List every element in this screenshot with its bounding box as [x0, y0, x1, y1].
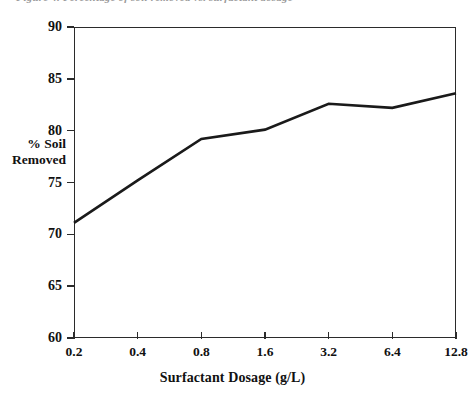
y-axis-tick-label: 85 [48, 69, 62, 89]
y-axis-tick-mark [67, 285, 74, 286]
y-axis-tick-mark [67, 234, 74, 235]
x-axis-title: Surfactant Dosage (g/L) [0, 370, 465, 386]
y-axis-tick-label: 65 [48, 276, 62, 296]
y-axis-tick-label: 90 [48, 17, 62, 37]
x-axis-tick-mark [455, 332, 456, 339]
y-axis-tick-mark [67, 26, 74, 27]
figure-caption-clipped: Figure 4. Percentage of soil removed vs.… [0, 0, 465, 5]
y-axis-tick-label: 70 [48, 224, 62, 244]
y-axis-tick-label: 75 [48, 173, 62, 193]
x-axis-tick-mark [137, 332, 138, 339]
y-axis-title-line: % Soil [0, 136, 66, 152]
x-axis-tick-mark [201, 332, 202, 339]
y-axis-tick-mark [67, 182, 74, 183]
y-axis-tick-mark [67, 78, 74, 79]
x-axis-tick-mark [73, 332, 74, 339]
y-axis-title: % SoilRemoved [0, 136, 66, 167]
x-axis-tick-mark [264, 332, 265, 339]
x-axis-tick-mark [392, 332, 393, 339]
y-axis-title-line: Removed [0, 152, 66, 168]
y-axis-tick-mark [67, 130, 74, 131]
x-axis-tick-mark [328, 332, 329, 339]
x-axis-tick-label: 12.8 [416, 344, 472, 360]
plot-area [74, 27, 456, 338]
